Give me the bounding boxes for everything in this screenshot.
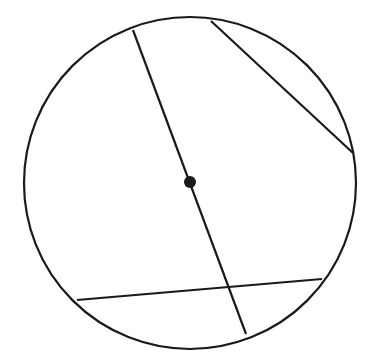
upper-right-chord	[211, 21, 353, 153]
center-point	[184, 176, 196, 188]
circle-diagram	[0, 0, 369, 358]
lower-chord	[77, 279, 322, 300]
